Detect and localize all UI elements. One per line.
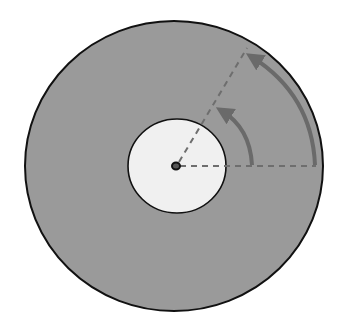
diagram-canvas: [0, 0, 343, 329]
spindle-hole: [172, 163, 180, 170]
